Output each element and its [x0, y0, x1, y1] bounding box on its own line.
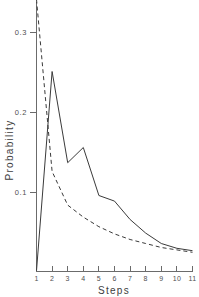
x-tick-labels: 1 2 3 4 5 6 7 8 9 10 11 — [34, 275, 196, 282]
x-tick-label: 10 — [173, 275, 181, 282]
data-series-group — [37, 0, 193, 271]
x-tick-label: 9 — [159, 275, 163, 282]
y-tick-label: 0.1 — [15, 188, 27, 197]
y-tick-label: 0.3 — [15, 28, 27, 37]
x-tick-label: 3 — [66, 275, 70, 282]
y-axis-title: Probability — [4, 120, 15, 181]
x-axis-title: Steps — [98, 285, 130, 296]
x-tick-marks — [37, 266, 193, 272]
y-tick-marks — [30, 33, 37, 193]
x-tick-label: 6 — [112, 275, 116, 282]
x-tick-label: 11 — [189, 275, 197, 282]
x-tick-label: 4 — [81, 275, 85, 282]
x-tick-label: 8 — [144, 275, 148, 282]
probability-vs-steps-chart: 0.3 0.2 0.1 Probability 1 — [0, 0, 199, 297]
x-tick-label: 1 — [34, 275, 38, 282]
chart-figure: 0.3 0.2 0.1 Probability 1 — [0, 0, 199, 297]
x-tick-label: 7 — [128, 275, 132, 282]
x-tick-label: 5 — [97, 275, 101, 282]
x-tick-label: 2 — [50, 275, 54, 282]
y-tick-labels: 0.3 0.2 0.1 — [15, 28, 27, 197]
x-axis: 1 2 3 4 5 6 7 8 9 10 11 Steps — [34, 266, 196, 296]
series-line-dashed — [37, 0, 193, 252]
y-axis: 0.3 0.2 0.1 Probability — [4, 2, 37, 272]
y-tick-label: 0.2 — [15, 108, 27, 117]
series-line-solid — [37, 72, 193, 271]
